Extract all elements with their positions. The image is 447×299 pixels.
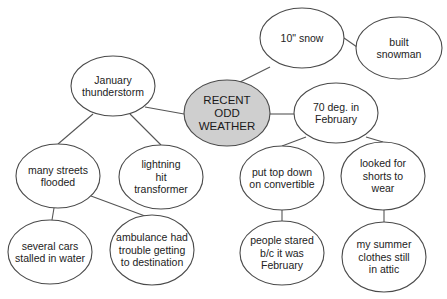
node-ellipse-january-thunderstorm (71, 56, 155, 116)
node-ellipse-people-stared (240, 221, 324, 285)
node-ellipse-center (184, 80, 270, 146)
edge-seventy-deg-february-to-looked-for-shorts (366, 137, 383, 142)
cropped-caption-text (0, 289, 447, 299)
node-shapes (8, 8, 442, 292)
edge-ten-inch-snow-to-built-snowman (344, 38, 357, 47)
node-ellipse-looked-for-shorts (341, 142, 425, 210)
edge-many-streets-flooded-to-several-cars-stalled (52, 208, 54, 220)
node-ellipse-several-cars-stalled (8, 220, 92, 284)
weather-cluster-diagram (0, 0, 447, 299)
edge-january-thunderstorm-to-many-streets-flooded (58, 114, 93, 144)
node-ellipse-summer-clothes-attic (342, 222, 426, 292)
node-ellipse-lightning-hit-transformer (119, 145, 203, 209)
edge-january-thunderstorm-to-lightning-hit-transformer (130, 114, 161, 145)
node-ellipse-ten-inch-snow (260, 8, 344, 68)
edge-center-to-ten-inch-snow (240, 67, 270, 82)
node-ellipse-put-top-down (240, 146, 324, 210)
node-ellipse-ambulance-trouble (110, 215, 194, 285)
edge-center-to-january-thunderstorm (145, 107, 184, 114)
node-ellipse-seventy-deg-february (294, 83, 378, 143)
node-ellipse-built-snowman (356, 17, 442, 79)
node-ellipse-many-streets-flooded (16, 144, 100, 208)
edge-seventy-deg-february-to-put-top-down (282, 137, 306, 146)
